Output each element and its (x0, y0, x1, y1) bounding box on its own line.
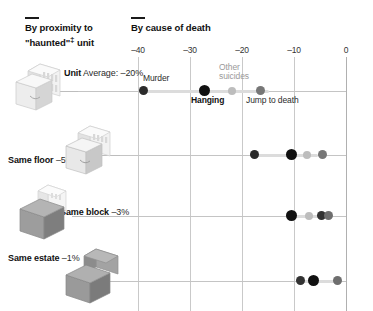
dot-same-floor-jump-to-death (318, 150, 327, 159)
dot-same-block-hanging (286, 210, 297, 221)
dot-same-estate-murder (296, 276, 305, 285)
chart-root: By proximity to "haunted"‡ unit By cause… (0, 0, 373, 311)
dot-same-block-other-suicides (305, 212, 313, 220)
dot-same-block-jump-to-death (324, 211, 333, 220)
dot-same-floor-hanging (286, 149, 297, 160)
dot-unit-murder (139, 86, 148, 95)
dot-same-floor-murder (250, 150, 259, 159)
building-floor-icon (60, 124, 122, 186)
tick-label-minus30: –30 (173, 45, 207, 55)
row-label-unit: Unit Average: –20% (64, 68, 143, 78)
dot-same-estate-hanging (308, 275, 319, 286)
tick-label-minus40: –40 (121, 45, 155, 55)
dot-same-estate-jump-to-death (333, 276, 342, 285)
gridline-minus40 (138, 57, 139, 311)
dot-unit-other-suicides (228, 87, 236, 95)
cause-label-murder: Murder (143, 74, 169, 84)
row-label-unit-light: Average: –20% (81, 68, 143, 78)
row-label-same-floor-strong: Same floor (8, 155, 54, 165)
gridline-minus20 (242, 57, 243, 311)
gridline-zero (346, 57, 347, 311)
building-block-icon (16, 183, 82, 249)
cause-label-other-suicides-line2: suicides (219, 72, 249, 82)
building-estate-icon (60, 247, 130, 309)
building-tower-icon (8, 60, 74, 120)
tick-label-zero: 0 (329, 45, 363, 55)
tick-label-minus20: –20 (225, 45, 259, 55)
cause-label-jump-to-death: Jump to death (246, 96, 299, 106)
cause-label-hanging: Hanging (191, 96, 224, 106)
dot-same-floor-other-suicides (303, 151, 311, 159)
tick-label-minus10: –10 (277, 45, 311, 55)
dot-unit-jump-to-death (256, 86, 265, 95)
row-label-same-block-light: –3% (109, 207, 129, 217)
row-label-same-estate-strong: Same estate (8, 253, 59, 263)
